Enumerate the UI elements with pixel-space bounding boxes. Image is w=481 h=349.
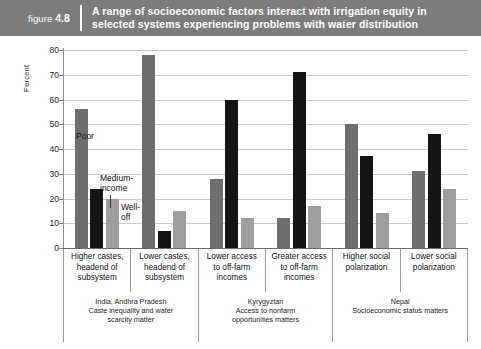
source-1-sub-line-2: scarcity matter [88, 315, 173, 324]
source-label-1: India, Andhra PradeshCaste inequality an… [88, 297, 173, 324]
category-4-line-2: to off-farm [271, 263, 327, 274]
source-country-1: India, Andhra Pradesh [88, 297, 173, 306]
category-3-line-2: to off-farm [207, 263, 257, 274]
source-cell-3: NepalSocioeconomic status matters [332, 292, 468, 342]
chart-source-labels: India, Andhra PradeshCaste inequality an… [63, 292, 468, 342]
bar-group-5-series-medium [360, 156, 373, 248]
bar-group-5-series-well [376, 213, 389, 248]
source-label-3: NepalSocioeconomic status matters [352, 297, 448, 315]
category-label-5: Higher socialpolarization [343, 252, 390, 273]
well-off-line-2: off [121, 212, 140, 222]
category-5-line-2: polarization [343, 263, 390, 274]
category-3-line-3: incomes [207, 273, 257, 284]
y-tick-label-20: 20 [50, 194, 59, 204]
category-3-line-1: Lower access [207, 252, 257, 263]
figure-number-text: 4.8 [55, 12, 70, 24]
chart-plot-area: Percent 01020304050607080 Poor Medium- i… [0, 36, 481, 349]
series-annotation-medium-income: Medium- income [100, 173, 133, 193]
y-tick-label-50: 50 [50, 119, 59, 129]
category-cell-2: Lower castes,headend ofsubsystem [130, 249, 197, 292]
y-tick-label-80: 80 [50, 45, 59, 55]
category-6-line-1: Lower social [411, 252, 457, 263]
medium-income-leader-line [110, 195, 111, 208]
medium-income-line-1: Medium- [100, 173, 133, 183]
figure-banner: figure 4.8 A range of socioeconomic fact… [0, 0, 481, 36]
category-cell-4: Greater accessto off-farmincomes [265, 249, 332, 292]
y-tick-label-10: 10 [50, 218, 59, 228]
category-cell-3: Lower accessto off-farmincomes [198, 249, 265, 292]
category-2-line-2: headend of [139, 263, 190, 274]
medium-income-line-2: income [100, 183, 133, 193]
category-cell-6: Lower socialpolarization [400, 249, 468, 292]
source-cell-2: KyrygyztanAccess to nonfarmopportunities… [198, 292, 333, 342]
y-tick-label-30: 30 [50, 169, 59, 179]
category-cell-1: Higher castes,headend ofsubsystem [63, 249, 130, 292]
figure-4-8-container: figure 4.8 A range of socioeconomic fact… [0, 0, 481, 349]
banner-divider [80, 5, 82, 31]
source-1-sub-line-1: Caste inequality and water [88, 306, 173, 315]
category-4-line-1: Greater access [271, 252, 327, 263]
figure-title-line-1: A range of socioeconomic factors interac… [92, 5, 427, 18]
bar-group-4-series-well [308, 206, 321, 248]
source-country-2: Kyrygyztan [232, 297, 299, 306]
y-tick-label-70: 70 [50, 70, 59, 80]
bar-group-2-series-medium [158, 231, 171, 248]
source-label-2: KyrygyztanAccess to nonfarmopportunities… [232, 297, 299, 324]
well-off-line-1: Well- [121, 202, 140, 212]
y-tick-label-60: 60 [50, 95, 59, 105]
bar-group-1-series-well [106, 199, 119, 249]
category-1-line-1: Higher castes, [71, 252, 123, 263]
source-cell-1: India, Andhra PradeshCaste inequality an… [63, 292, 198, 342]
source-country-3: Nepal [352, 297, 448, 306]
figure-number-label: figure 4.8 [0, 12, 80, 24]
source-2-sub-line-2: opportunities matters [232, 315, 299, 324]
category-label-2: Lower castes,headend ofsubsystem [139, 252, 190, 284]
bar-group-5-series-poor [345, 124, 358, 248]
category-cell-5: Higher socialpolarization [332, 249, 399, 292]
y-axis-tick-labels: 01020304050607080 [44, 50, 59, 248]
category-label-1: Higher castes,headend ofsubsystem [71, 252, 123, 284]
source-2-sub-line-1: Access to nonfarm [232, 306, 299, 315]
bar-group-6-series-well [443, 189, 456, 248]
figure-prefix-text: figure [28, 13, 52, 24]
y-tick-label-40: 40 [50, 144, 59, 154]
bar-group-2-series-poor [142, 55, 155, 248]
bar-group-3-series-well [241, 218, 254, 248]
category-5-line-1: Higher social [343, 252, 390, 263]
x-axis-category-labels: Higher castes,headend ofsubsystemLower c… [63, 249, 468, 292]
figure-title-line-2: selected systems experiencing problems w… [92, 18, 427, 31]
series-annotation-poor: Poor [76, 131, 94, 141]
bar-group-1-series-medium [90, 189, 103, 248]
bar-group-4-series-poor [277, 218, 290, 248]
category-label-4: Greater accessto off-farmincomes [271, 252, 327, 284]
category-6-line-2: polarization [411, 263, 457, 274]
category-label-3: Lower accessto off-farmincomes [207, 252, 257, 284]
y-axis-title: Percent [22, 65, 31, 92]
category-2-line-1: Lower castes, [139, 252, 190, 263]
category-4-line-3: incomes [271, 273, 327, 284]
source-3-sub-line-1: Socioeconomic status matters [352, 306, 448, 315]
category-1-line-2: headend of [71, 263, 123, 274]
category-2-line-3: subsystem [139, 273, 190, 284]
bar-group-3-series-medium [225, 100, 238, 249]
category-1-line-3: subsystem [71, 273, 123, 284]
bar-group-3-series-poor [210, 179, 223, 248]
figure-title: A range of socioeconomic factors interac… [92, 5, 435, 31]
bar-group-6-series-medium [428, 134, 441, 248]
bar-group-4-series-medium [293, 72, 306, 248]
bar-group-6-series-poor [412, 171, 425, 248]
category-label-6: Lower socialpolarization [411, 252, 457, 273]
series-annotation-well-off: Well- off [121, 202, 140, 222]
bar-group-2-series-well [173, 211, 186, 248]
